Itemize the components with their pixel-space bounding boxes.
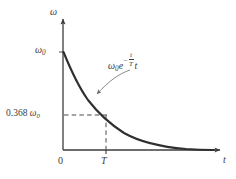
equation-omega-symbol: ω [108, 60, 115, 71]
x-tick-label-origin: 0 [58, 156, 63, 166]
x-tick-label-time-constant: T [101, 156, 107, 166]
equation-exponential: e−tT [119, 53, 134, 71]
x-axis-label: t [223, 155, 226, 165]
equation-exp-denominator: T [129, 61, 134, 68]
equation-exp-numerator: t [129, 52, 134, 59]
omega-symbol: ω [35, 44, 42, 55]
omega-zero-subscript: 0 [42, 49, 46, 57]
y-tick-label-0368-omega-zero: 0.368 ω0 [6, 109, 40, 120]
y-axis-label: ω [50, 7, 57, 17]
equation-trailing-variable: t [134, 60, 138, 71]
exponential-decay-figure: ω t ω0 0.368 ω0 0 T ω0e−tTt [0, 0, 236, 179]
equation-exponent: −tT [123, 53, 133, 69]
equation-exp-fraction: tT [129, 52, 134, 68]
curve-equation-annotation: ω0e−tTt [108, 53, 137, 73]
plot-canvas [0, 0, 236, 179]
decay-coefficient-value: 0.368 [6, 108, 27, 118]
y-tick-label-omega-zero: ω0 [35, 45, 46, 57]
decay-omega-subscript: 0 [36, 112, 39, 119]
decay-curve [64, 52, 215, 150]
annotation-leader-line [97, 70, 130, 94]
